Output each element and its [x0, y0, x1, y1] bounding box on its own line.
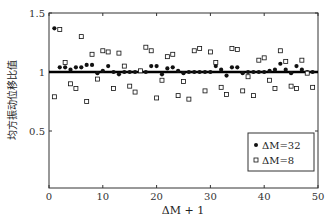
point-dM32 [278, 62, 282, 66]
point-dM8 [241, 89, 245, 93]
point-dM32 [241, 71, 245, 75]
point-dM32 [155, 64, 159, 68]
point-dM32 [68, 68, 72, 72]
x-axis-label: ΔM + 1 [162, 204, 204, 217]
y-tick-label: 1.5 [29, 8, 45, 19]
point-dM8 [251, 94, 255, 98]
point-dM32 [246, 70, 250, 74]
point-dM32 [95, 71, 99, 75]
point-dM8 [69, 82, 73, 86]
point-dM8 [278, 49, 282, 53]
point-dM8 [187, 97, 191, 101]
point-dM32 [106, 64, 110, 68]
point-dM32 [171, 65, 175, 69]
point-dM32 [262, 70, 266, 74]
point-dM32 [90, 63, 94, 67]
point-dM32 [63, 65, 67, 69]
point-dM32 [58, 65, 62, 69]
point-dM32 [181, 71, 185, 75]
point-dM8 [149, 49, 153, 53]
point-dM8 [63, 61, 67, 65]
point-dM32 [273, 68, 277, 72]
point-dM8 [112, 87, 116, 91]
x-tick-label: 30 [204, 191, 217, 202]
point-dM32 [52, 26, 56, 30]
point-dM32 [165, 66, 169, 70]
point-dM32 [294, 64, 298, 68]
axes: 010203040500.511.5 [29, 8, 324, 203]
point-dM8 [165, 55, 169, 59]
point-dM32 [198, 70, 202, 74]
point-dM32 [284, 68, 288, 72]
point-dM8 [52, 95, 56, 99]
point-dM32 [311, 70, 315, 74]
point-dM32 [208, 70, 212, 74]
point-dM32 [79, 65, 83, 69]
point-dM32 [149, 64, 153, 68]
point-dM32 [251, 70, 255, 74]
point-dM32 [267, 69, 271, 73]
y-tick-label: 1 [39, 67, 45, 78]
point-dM8 [268, 78, 272, 82]
point-dM8 [203, 89, 207, 93]
point-dM32 [230, 65, 234, 69]
point-dM8 [182, 79, 186, 83]
point-dM8 [128, 84, 132, 88]
point-dM8 [155, 96, 159, 100]
point-dM8 [106, 50, 110, 54]
point-dM8 [246, 75, 250, 79]
point-dM32 [235, 65, 239, 69]
point-dM8 [294, 87, 298, 91]
point-dM8 [289, 84, 293, 88]
point-dM32 [128, 70, 132, 74]
y-axis-label: 均方振动位移比值 [6, 60, 18, 140]
point-dM32 [160, 72, 164, 76]
point-dM8 [198, 46, 202, 50]
point-dM8 [117, 51, 121, 55]
point-dM8 [58, 28, 62, 32]
point-dM8 [305, 71, 309, 75]
point-dM32 [101, 69, 105, 73]
point-dM8 [95, 77, 99, 81]
y-tick-label: 0.5 [29, 126, 45, 137]
point-dM8 [90, 52, 94, 56]
point-dM8 [235, 48, 239, 52]
point-dM8 [133, 90, 137, 94]
point-dM8 [176, 94, 180, 98]
point-dM8 [85, 100, 89, 104]
x-tick-label: 40 [258, 191, 271, 202]
point-dM8 [101, 49, 105, 53]
point-dM32 [224, 73, 228, 77]
point-dM32 [203, 70, 207, 74]
point-dM32 [133, 70, 137, 74]
point-dM32 [289, 71, 293, 75]
x-tick-label: 10 [96, 191, 109, 202]
point-dM8 [192, 49, 196, 53]
point-dM32 [144, 70, 148, 74]
point-dM8 [225, 92, 229, 96]
point-dM8 [262, 56, 266, 60]
scatter-chart: 010203040500.511.5 ΔM=32ΔM=8 ΔM + 1 均方振动… [0, 0, 332, 219]
legend-label: ΔM=32 [262, 140, 301, 151]
point-dM8 [74, 87, 78, 91]
point-dM32 [122, 70, 126, 74]
x-tick-label: 0 [46, 191, 52, 202]
legend-marker-square [254, 158, 258, 162]
point-dM8 [214, 61, 218, 65]
point-dM32 [85, 63, 89, 67]
point-dM32 [117, 72, 121, 76]
point-dM8 [122, 64, 126, 68]
point-dM8 [257, 58, 261, 62]
point-dM8 [144, 45, 148, 49]
legend-marker-circle [254, 143, 258, 147]
point-dM32 [187, 70, 191, 74]
point-dM8 [208, 50, 212, 54]
point-dM32 [192, 70, 196, 74]
point-dM8 [273, 87, 277, 91]
data-points [52, 26, 314, 103]
point-dM32 [74, 65, 78, 69]
point-dM8 [311, 85, 315, 89]
point-dM8 [79, 35, 83, 39]
point-dM8 [138, 69, 142, 73]
point-dM8 [230, 46, 234, 50]
